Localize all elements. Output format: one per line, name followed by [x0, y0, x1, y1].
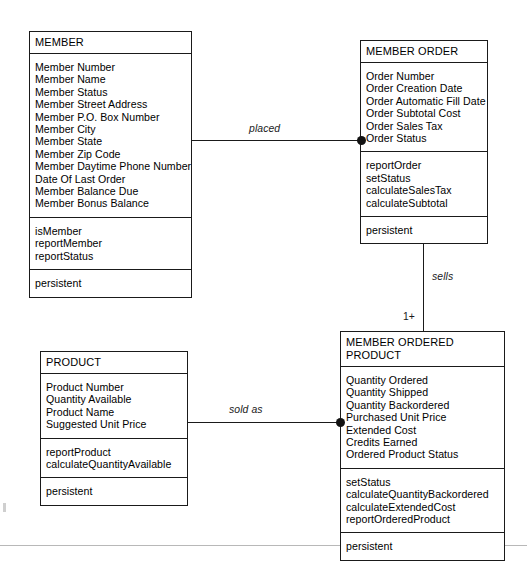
uml-attribute: Member Street Address: [35, 98, 186, 110]
uml-property: persistent: [46, 485, 182, 497]
uml-attribute: Date Of Last Order: [35, 173, 186, 185]
uml-attribute: Extended Cost: [346, 424, 499, 436]
uml-class-member-ordered-product-operations: setStatus calculateQuantityBackordered c…: [341, 469, 504, 534]
uml-operation: calculateQuantityBackordered: [346, 488, 499, 500]
uml-property: persistent: [35, 277, 186, 289]
uml-property: persistent: [346, 540, 499, 552]
uml-class-member[interactable]: MEMBER Member Number Member Name Member …: [29, 31, 192, 298]
uml-operation: reportOrder: [366, 159, 482, 171]
uml-class-member-order-properties: persistent: [361, 217, 487, 243]
uml-attribute: Order Creation Date: [366, 82, 482, 94]
uml-operation: reportStatus: [35, 250, 186, 262]
uml-class-member-ordered-product-name: MEMBER ORDERED PRODUCT: [341, 332, 504, 367]
uml-attribute: Member Status: [35, 86, 186, 98]
aggregation-diamond-sold-as: [336, 418, 345, 427]
uml-attribute: Member Number: [35, 61, 186, 73]
uml-operation: reportProduct: [46, 446, 182, 458]
association-line-sells: [423, 238, 424, 332]
uml-operation: setStatus: [346, 476, 499, 488]
uml-class-member-order-name: MEMBER ORDER: [361, 41, 487, 63]
uml-class-member-order-operations: reportOrder setStatus calculateSalesTax …: [361, 152, 487, 217]
uml-operation: setStatus: [366, 172, 482, 184]
uml-attribute: Order Subtotal Cost: [366, 107, 482, 119]
uml-property: persistent: [366, 224, 482, 236]
uml-class-product-properties: persistent: [41, 478, 187, 504]
uml-operation: reportOrderedProduct: [346, 513, 499, 525]
uml-class-member-properties: persistent: [30, 270, 191, 296]
uml-attribute: Order Status: [366, 132, 482, 144]
uml-attribute: Member Name: [35, 73, 186, 85]
uml-attribute: Order Automatic Fill Date: [366, 95, 482, 107]
aggregation-diamond-placed: [357, 136, 366, 145]
uml-class-member-ordered-product[interactable]: MEMBER ORDERED PRODUCT Quantity Ordered …: [340, 331, 505, 561]
uml-attribute: Ordered Product Status: [346, 448, 499, 460]
uml-class-product[interactable]: PRODUCT Product Number Quantity Availabl…: [40, 351, 188, 506]
uml-attribute: Product Name: [46, 406, 182, 418]
uml-class-product-operations: reportProduct calculateQuantityAvailable: [41, 439, 187, 479]
uml-attribute: Order Sales Tax: [366, 120, 482, 132]
uml-class-product-attributes: Product Number Quantity Available Produc…: [41, 374, 187, 439]
uml-attribute: Member State: [35, 135, 186, 147]
uml-attribute: Member Daytime Phone Number: [35, 160, 186, 172]
association-label-sells: sells: [432, 271, 453, 282]
uml-operation: calculateSubtotal: [366, 197, 482, 209]
uml-attribute: Credits Earned: [346, 436, 499, 448]
uml-attribute: Member Zip Code: [35, 148, 186, 160]
uml-attribute: Product Number: [46, 381, 182, 393]
uml-class-member-attributes: Member Number Member Name Member Status …: [30, 54, 191, 218]
uml-attribute: Quantity Ordered: [346, 374, 499, 386]
uml-attribute: Member P.O. Box Number: [35, 111, 186, 123]
uml-attribute: Quantity Backordered: [346, 399, 499, 411]
page-edge-mark: [3, 503, 6, 512]
multiplicity-label-sells: 1+: [403, 311, 415, 322]
uml-class-member-ordered-product-attributes: Quantity Ordered Quantity Shipped Quanti…: [341, 367, 504, 469]
uml-class-member-order-attributes: Order Number Order Creation Date Order A…: [361, 63, 487, 152]
uml-attribute: Quantity Available: [46, 393, 182, 405]
uml-class-product-name: PRODUCT: [41, 352, 187, 374]
uml-operation: isMember: [35, 225, 186, 237]
uml-operation: calculateSalesTax: [366, 184, 482, 196]
association-line-sold-as: [188, 422, 344, 423]
uml-attribute: Member Balance Due: [35, 185, 186, 197]
uml-operation: calculateQuantityAvailable: [46, 458, 182, 470]
uml-class-member-ordered-product-properties: persistent: [341, 533, 504, 559]
association-label-placed: placed: [249, 123, 280, 134]
uml-class-member-order[interactable]: MEMBER ORDER Order Number Order Creation…: [360, 40, 488, 244]
association-line-placed: [192, 140, 364, 141]
uml-attribute: Quantity Shipped: [346, 386, 499, 398]
association-label-sold-as: sold as: [229, 404, 263, 415]
uml-operation: calculateExtendedCost: [346, 501, 499, 513]
uml-class-member-operations: isMember reportMember reportStatus: [30, 218, 191, 270]
uml-attribute: Purchased Unit Price: [346, 411, 499, 423]
uml-operation: reportMember: [35, 237, 186, 249]
uml-attribute: Suggested Unit Price: [46, 418, 182, 430]
uml-attribute: Order Number: [366, 70, 482, 82]
uml-attribute: Member City: [35, 123, 186, 135]
uml-class-member-name: MEMBER: [30, 32, 191, 54]
uml-class-diagram-canvas: placed sells 1+ sold as MEMBER Member Nu…: [0, 0, 527, 564]
uml-attribute: Member Bonus Balance: [35, 197, 186, 209]
